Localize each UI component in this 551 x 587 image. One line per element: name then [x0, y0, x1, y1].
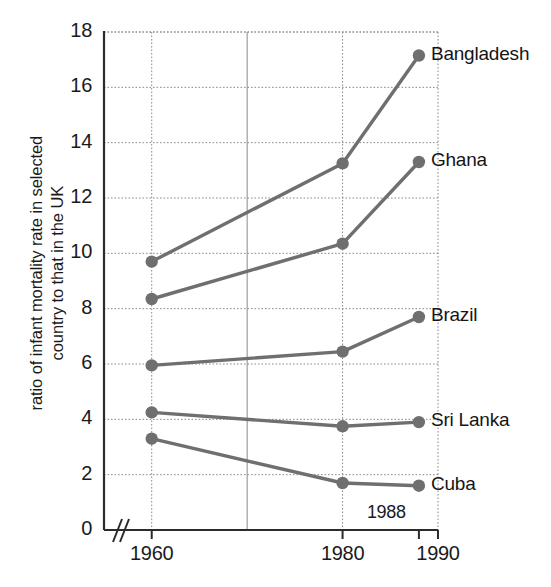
- data-point-brazil-1960: [146, 359, 158, 371]
- data-point-cuba-1980: [336, 477, 348, 489]
- y-axis-tick-label: 6: [62, 351, 92, 374]
- data-point-ghana-1988: [413, 156, 425, 168]
- series-line-cuba: [152, 439, 419, 486]
- data-point-cuba-1988: [413, 480, 425, 492]
- x-axis-tick-label: 1980: [308, 542, 378, 565]
- data-point-sri-lanka-1980: [336, 420, 348, 432]
- series-label-cuba: Cuba: [431, 473, 476, 495]
- series-label-ghana: Ghana: [431, 149, 487, 171]
- series-label-brazil: Brazil: [431, 304, 477, 326]
- data-point-bangladesh-1980: [336, 157, 348, 169]
- y-axis-tick-label: 16: [62, 74, 92, 97]
- y-axis-tick-label: 10: [62, 240, 92, 263]
- infant-mortality-ratio-line-chart: ratio of infant mortality rate in select…: [0, 0, 551, 587]
- y-axis-tick-label: 0: [62, 517, 92, 540]
- data-point-bangladesh-1988: [413, 49, 425, 61]
- y-axis-tick-label: 2: [62, 462, 92, 485]
- y-axis-tick-label: 8: [62, 296, 92, 319]
- y-axis-tick-label: 14: [62, 130, 92, 153]
- y-axis-tick-label: 4: [62, 406, 92, 429]
- series-label-sri-lanka: Sri Lanka: [431, 409, 509, 431]
- data-point-brazil-1988: [413, 311, 425, 323]
- series-line-ghana: [152, 162, 419, 299]
- y-axis-tick-label: 12: [62, 185, 92, 208]
- y-axis-tick-label: 18: [62, 19, 92, 42]
- data-point-bangladesh-1960: [146, 255, 158, 267]
- data-point-cuba-1960: [146, 433, 158, 445]
- x-axis-tick-label: 1990: [403, 542, 473, 565]
- data-point-sri-lanka-1988: [413, 416, 425, 428]
- series-label-bangladesh: Bangladesh: [431, 43, 529, 65]
- x-axis-tick-label: 1960: [117, 542, 187, 565]
- data-point-sri-lanka-1960: [146, 406, 158, 418]
- data-point-brazil-1980: [336, 345, 348, 357]
- series-line-brazil: [152, 317, 419, 365]
- data-point-ghana-1960: [146, 293, 158, 305]
- series-line-bangladesh: [152, 56, 419, 262]
- data-point-ghana-1980: [336, 238, 348, 250]
- x-axis-annotation-1988: 1988: [367, 502, 406, 523]
